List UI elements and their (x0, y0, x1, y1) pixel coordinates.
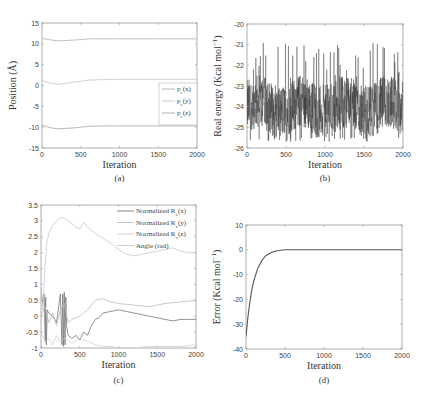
x-tick-label: 1500 (150, 151, 166, 158)
y-tick-label: 0 (35, 82, 39, 89)
y-tick-label: -10 (233, 271, 243, 278)
y-tick-label: -20 (234, 21, 244, 28)
y-tick-label: 10 (235, 222, 243, 229)
y-tick-label: 2 (34, 249, 38, 256)
y-tick-label: 1 (34, 281, 38, 288)
y-axis-label: Position (Å) (7, 61, 19, 110)
y-tick-label: -0.5 (26, 329, 38, 336)
panel-caption: (b) (320, 173, 331, 183)
y-tick-label: 0 (239, 246, 243, 253)
legend-entry: Angle (rad) (136, 242, 169, 250)
chart-panel-d: 0500100015002000-40-30-20-10010Iteration… (210, 222, 410, 386)
chart-panel-a: 0500100015002000-15-10-5051015IterationP… (7, 20, 205, 184)
y-tick-label: -23 (234, 83, 244, 90)
axes-box (246, 225, 402, 349)
x-tick-label: 2000 (394, 352, 410, 359)
y-tick-label: 2.5 (28, 233, 38, 240)
y-tick-label: 3 (34, 217, 38, 224)
chart-panel-b: 0500100015002000-26-25-24-23-22-21-20Ite… (211, 21, 411, 184)
y-tick-label: 3.5 (28, 202, 38, 209)
y-tick-label: -30 (233, 321, 243, 328)
y-tick-label: -25 (234, 124, 244, 131)
y-tick-label: 15 (31, 20, 39, 27)
x-tick-label: 500 (74, 351, 86, 358)
y-tick-label: 0 (34, 313, 38, 320)
y-axis-label: Real energy (Kcal mol−1) (211, 35, 224, 136)
x-tick-label: 0 (244, 352, 248, 359)
y-tick-label: -40 (233, 346, 243, 353)
y-tick-label: -5 (33, 103, 39, 110)
figure-canvas: 0500100015002000-15-10-5051015IterationP… (0, 0, 426, 403)
x-tick-label: 1500 (355, 352, 371, 359)
x-tick-label: 1500 (149, 351, 165, 358)
x-tick-label: 0 (245, 151, 249, 158)
y-tick-label: 5 (35, 61, 39, 68)
y-tick-label: -24 (234, 103, 244, 110)
x-axis-label: Iteration (103, 159, 137, 170)
y-axis-label: Error (Kcal mol−1) (210, 250, 223, 325)
y-tick-label: -26 (234, 145, 244, 152)
panel-caption: (d) (319, 375, 330, 385)
x-tick-label: 1000 (111, 351, 127, 358)
x-axis-label: Iteration (102, 359, 136, 370)
y-tick-label: -20 (233, 296, 243, 303)
x-axis-label: Iteration (307, 360, 341, 371)
y-tick-label: 0.5 (28, 297, 38, 304)
y-tick-label: -21 (234, 41, 244, 48)
y-tick-label: -10 (29, 124, 39, 131)
panel-caption: (a) (115, 173, 125, 183)
x-tick-label: 500 (280, 151, 292, 158)
x-tick-label: 500 (75, 151, 87, 158)
chart-panel-c: 0500100015002000-1-0.500.511.522.533.5It… (26, 202, 204, 386)
x-tick-label: 500 (279, 352, 291, 359)
x-tick-label: 0 (39, 351, 43, 358)
y-tick-label: -1 (32, 345, 38, 352)
panel-caption: (c) (114, 375, 124, 385)
x-axis-label: Iteration (308, 159, 342, 170)
x-tick-label: 1500 (356, 151, 372, 158)
x-tick-label: 1000 (317, 151, 333, 158)
x-tick-label: 1000 (316, 352, 332, 359)
x-tick-label: 2000 (189, 151, 205, 158)
x-tick-label: 2000 (395, 151, 411, 158)
y-tick-label: -15 (29, 145, 39, 152)
y-tick-label: 10 (31, 40, 39, 47)
x-tick-label: 0 (40, 151, 44, 158)
y-tick-label: -22 (234, 62, 244, 69)
x-tick-label: 2000 (188, 351, 204, 358)
y-tick-label: 1.5 (28, 265, 38, 272)
x-tick-label: 1000 (112, 151, 128, 158)
